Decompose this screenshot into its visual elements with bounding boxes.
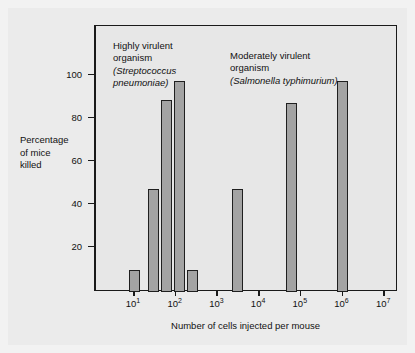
y-axis-tick-label: 20 [48,240,82,251]
y-axis-tick [88,203,95,205]
bar [337,81,348,292]
bar [187,270,198,292]
annotation-strep-line1: Highly virulent [113,40,176,52]
annotation-salmonella: Moderately virulent organism (Salmonella… [230,50,338,87]
y-axis-tick-label: 40 [48,197,82,208]
y-axis-title: Percentage of mice killed [20,134,88,172]
bar [286,103,297,292]
bar [148,189,159,292]
y-axis-title-line2: of mice [20,147,88,160]
y-axis-title-line1: Percentage [20,134,88,147]
x-axis-tick-label: 103 [196,298,236,309]
x-axis-tick [300,291,302,296]
x-axis-tick [258,291,260,296]
y-axis-tick [88,246,95,248]
y-axis-line [94,25,96,291]
bar [232,189,243,292]
chart-figure: 20406080100 Percentage of mice killed 10… [0,0,415,353]
x-axis-tick [133,291,135,296]
x-axis-tick-label: 102 [155,298,195,309]
annotation-strep-line2: organism [113,52,176,64]
y-axis-tick-label: 100 [48,68,82,79]
y-axis-tick-label: 80 [48,111,82,122]
x-axis-tick-label: 101 [113,298,153,309]
y-axis-tick [88,74,95,76]
x-axis-tick-label: 107 [363,298,403,309]
annotation-strep-line3: (Streptococcus [113,65,176,77]
y-axis-tick [88,160,95,162]
annotation-salm-line2: organism [230,62,338,74]
x-axis-tick [383,291,385,296]
annotation-strep-line4: pneumoniae) [113,77,176,89]
annotation-streptococcus: Highly virulent organism (Streptococcus … [113,40,176,89]
x-axis-title: Number of cells injected per mouse [94,320,397,331]
x-axis-tick [216,291,218,296]
annotation-salm-line1: Moderately virulent [230,50,338,62]
x-axis-tick [342,291,344,296]
bar [174,81,185,292]
y-axis-title-line3: killed [20,159,88,172]
x-axis-tick-label: 105 [280,298,320,309]
x-axis-tick-label: 106 [322,298,362,309]
annotation-salm-line3: (Salmonella typhimurium) [230,75,338,87]
x-axis-tick [175,291,177,296]
x-axis-tick-label: 104 [238,298,278,309]
bar [129,270,140,292]
y-axis-tick [88,117,95,119]
bar [161,100,172,292]
